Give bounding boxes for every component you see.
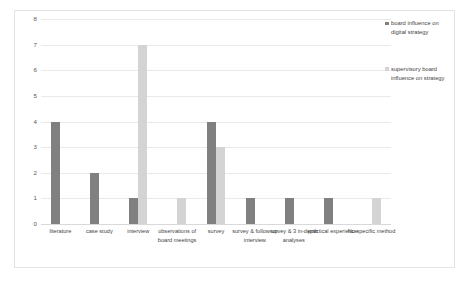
y-tick-label-5: 5	[34, 93, 37, 99]
bar-series-1	[324, 198, 333, 224]
bar-series-2	[372, 198, 381, 224]
legend-entry-series-2: supervisory board influence on strategy	[385, 65, 451, 84]
bar-group	[158, 19, 197, 224]
legend-swatch-icon	[385, 67, 389, 71]
bar-group	[41, 19, 80, 224]
y-tick-label-4: 4	[34, 118, 37, 124]
bar-series-2	[177, 198, 186, 224]
x-axis-category-labels: literaturecase studyinterviewobservation…	[41, 227, 391, 269]
bar-group	[119, 19, 158, 224]
bar-group	[197, 19, 236, 224]
bar-group	[80, 19, 119, 224]
chart-frame: 012345678 literaturecase studyinterviewo…	[14, 10, 455, 268]
y-tick-label-3: 3	[34, 144, 37, 150]
x-axis-label: No specific method	[345, 227, 398, 236]
bar-group	[235, 19, 274, 224]
gridline-0	[41, 224, 391, 225]
bar-series-1	[90, 173, 99, 224]
bar-series-1	[285, 198, 294, 224]
bar-chart-figure: 012345678 literaturecase studyinterviewo…	[0, 0, 468, 284]
legend-swatch-icon	[385, 22, 389, 26]
chart-legend: board influence on digital strategysuper…	[385, 19, 451, 110]
y-tick-label-7: 7	[34, 42, 37, 48]
bar-series-2	[216, 147, 225, 224]
bar-series-1	[246, 198, 255, 224]
legend-label: board influence on digital strategy	[391, 19, 451, 38]
legend-entry-series-1: board influence on digital strategy	[385, 19, 451, 38]
y-tick-label-6: 6	[34, 67, 37, 73]
bar-series-1	[207, 122, 216, 225]
bar-group	[274, 19, 313, 224]
y-tick-label-1: 1	[34, 195, 37, 201]
plot-area: 012345678	[41, 19, 391, 224]
y-tick-label-8: 8	[34, 16, 37, 22]
bar-series-1	[129, 198, 138, 224]
bar-group	[313, 19, 352, 224]
bar-series-1	[51, 122, 60, 225]
bar-series-2	[138, 45, 147, 224]
bars-layer	[41, 19, 391, 224]
y-tick-label-2: 2	[34, 170, 37, 176]
legend-label: supervisory board influence on strategy	[391, 65, 451, 84]
